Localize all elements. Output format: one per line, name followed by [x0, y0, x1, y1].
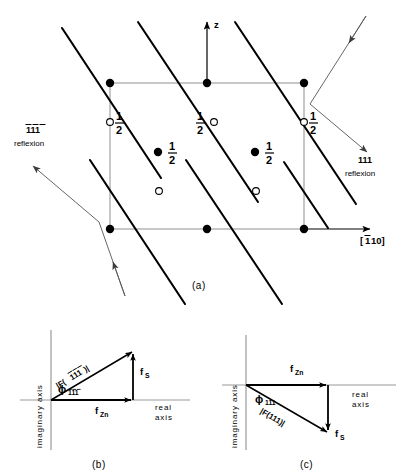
incident-ray-right-arrow — [349, 16, 366, 43]
svg-text:[: [ — [360, 235, 364, 246]
panel-c-resultant-label: |F(111)| — [258, 407, 286, 428]
right-reflexion-index: 111 — [358, 155, 372, 165]
filled-atom — [203, 79, 211, 87]
open-atom — [107, 119, 114, 126]
plane-traces — [62, 22, 356, 304]
crystallography-figure: z [ 1 10] — [0, 0, 414, 475]
right-reflexion-word: reflexion — [345, 169, 375, 178]
plane-trace-1 — [62, 28, 161, 178]
filled-atom — [300, 79, 308, 87]
left-reflexion-index: 111 — [26, 125, 40, 135]
filled-atom — [300, 225, 308, 233]
svg-text:1: 1 — [169, 140, 175, 152]
filled-atom — [154, 148, 162, 156]
panel-c-imaginary-axis-label: imaginary axis — [230, 384, 239, 448]
svg-text:f: f — [290, 363, 294, 374]
svg-text:Zn: Zn — [100, 411, 108, 418]
svg-text:|F(111)|: |F(111)| — [258, 407, 286, 428]
panel-b-caption: (b) — [92, 459, 106, 470]
svg-text:10]: 10] — [371, 235, 385, 246]
svg-text:1: 1 — [310, 110, 316, 122]
axis-inplane-label: [ 1 10] — [360, 235, 385, 246]
svg-text:111: 111 — [68, 368, 84, 382]
panel-c-real-axis-label-2: axis — [352, 400, 370, 409]
svg-text:111: 111 — [68, 389, 79, 396]
open-atom — [211, 119, 218, 126]
figure-root: z [ 1 10] — [0, 0, 414, 475]
open-atom — [156, 188, 163, 195]
open-atom — [301, 119, 308, 126]
beam-111 — [310, 16, 367, 152]
panel-c-real-axis-label-1: real — [352, 390, 369, 399]
svg-text:2: 2 — [169, 154, 175, 166]
panel-a: z [ 1 10] — [14, 16, 385, 304]
svg-text:1: 1 — [116, 110, 122, 122]
panel-c-fs-label: f S — [335, 428, 345, 441]
panel-c-caption: (c) — [300, 459, 313, 470]
right-reflexion-label: 111 reflexion — [345, 155, 375, 178]
panel-b-fzn-label: f Zn — [95, 405, 108, 418]
half-label: 1 2 — [265, 140, 274, 166]
svg-text:Zn: Zn — [295, 369, 303, 376]
open-atoms — [107, 119, 308, 195]
svg-text:2: 2 — [266, 154, 272, 166]
half-label: 1 2 — [309, 110, 318, 136]
svg-text:ϕ: ϕ — [255, 393, 263, 405]
svg-text:1: 1 — [266, 140, 272, 152]
panel-c-fzn-label: f Zn — [290, 363, 303, 376]
svg-text:)|: )| — [82, 364, 91, 374]
svg-text:f: f — [335, 428, 339, 439]
panel-b-real-axis-label-2: axis — [155, 413, 173, 422]
panel-b-imaginary-axis-label: imaginary axis — [35, 384, 44, 448]
svg-text:111: 111 — [265, 399, 276, 406]
svg-text:S: S — [340, 434, 345, 441]
axis-z-label: z — [214, 19, 219, 30]
panel-c-phi-label: ϕ 111 — [255, 393, 276, 406]
axis-inplane: [ 1 10] — [304, 229, 385, 246]
panel-a-caption: (a) — [192, 280, 206, 291]
svg-text:f: f — [140, 366, 144, 377]
panel-b-fs-label: f S — [140, 366, 150, 379]
plane-trace-6 — [284, 162, 328, 228]
open-atom — [253, 188, 260, 195]
svg-text:f: f — [95, 405, 99, 416]
svg-text:2: 2 — [197, 124, 203, 136]
panel-b-real-axis-label-1: real — [155, 403, 172, 412]
svg-text:2: 2 — [310, 124, 316, 136]
panel-c: |F(111)| ϕ 111 f Zn f S real axis imagin… — [222, 335, 396, 470]
half-label: 1 2 — [196, 110, 205, 136]
reflected-ray-111 — [310, 104, 367, 152]
panel-b: |F( 111 )| ϕ 111 f Zn f S real axis — [20, 330, 190, 470]
svg-text:ϕ: ϕ — [58, 383, 66, 395]
filled-atoms — [106, 79, 308, 233]
axis-z: z — [207, 19, 219, 83]
reflected-ray-111bar — [33, 166, 99, 222]
half-label: 1 2 — [115, 110, 124, 136]
svg-text:S: S — [145, 372, 150, 379]
plane-trace-4 — [90, 160, 185, 304]
filled-atom — [106, 225, 114, 233]
filled-atom — [203, 225, 211, 233]
unit-cell-outline — [110, 83, 304, 229]
svg-text:1: 1 — [197, 110, 203, 122]
plane-trace-3 — [235, 22, 356, 204]
filled-atom — [106, 79, 114, 87]
left-reflexion-word: reflexion — [14, 139, 44, 148]
filled-atom — [251, 148, 259, 156]
half-label: 1 2 — [168, 140, 177, 166]
left-reflexion-label: 111 reflexion — [14, 125, 46, 149]
svg-text:2: 2 — [116, 124, 122, 136]
incident-ray-left-arrow — [113, 262, 125, 296]
